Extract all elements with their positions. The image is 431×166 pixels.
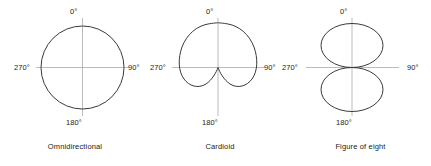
angle-label-270: 270° xyxy=(14,63,30,72)
panel-caption-cardioid: Cardioid xyxy=(150,142,290,151)
angle-label-180: 180° xyxy=(202,118,218,127)
angle-label-270: 270° xyxy=(150,63,166,72)
polar-pattern-figure: 0° 90° 180° 270° Omnidirectional 0° 90° … xyxy=(0,0,431,166)
polar-panel-cardioid: 0° 90° 180° 270° Cardioid xyxy=(150,0,290,166)
panel-caption-omnidirectional: Omnidirectional xyxy=(0,142,150,151)
angle-label-270: 270° xyxy=(282,63,298,72)
angle-label-90: 90° xyxy=(407,63,419,72)
angle-label-90: 90° xyxy=(128,63,140,72)
angle-label-0: 0° xyxy=(206,7,213,16)
angle-label-90: 90° xyxy=(264,63,276,72)
angle-label-180: 180° xyxy=(336,118,352,127)
panel-caption-figure-of-eight: Figure of eight xyxy=(290,142,431,151)
angle-label-180: 180° xyxy=(66,118,82,127)
angle-label-0: 0° xyxy=(70,7,77,16)
polar-panel-figure-of-eight: 0° 90° 180° 270° Figure of eight xyxy=(290,0,431,166)
angle-label-0: 0° xyxy=(340,7,347,16)
polar-panel-omnidirectional: 0° 90° 180° 270° Omnidirectional xyxy=(0,0,150,166)
